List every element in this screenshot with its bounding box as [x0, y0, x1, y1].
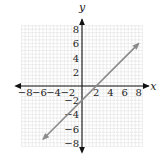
y-tick-label: −6 [64, 124, 79, 135]
y-tick-label: 4 [73, 53, 79, 64]
y-axis-label: y [78, 1, 86, 14]
coordinate-plane: −8−6−4−224688642−2−4−6−8 x y [0, 0, 167, 161]
x-tick-label: −6 [32, 87, 47, 98]
x-tick-label: −4 [46, 87, 61, 98]
x-axis-label: x [150, 80, 157, 93]
y-tick-label: 8 [73, 24, 79, 35]
x-tick-label: 4 [107, 87, 113, 98]
y-tick-label: −8 [64, 138, 79, 149]
x-tick-label: −8 [18, 87, 33, 98]
y-tick-label: 6 [73, 38, 79, 49]
axes [15, 19, 148, 152]
x-tick-label: 6 [121, 87, 127, 98]
y-tick-label: 2 [73, 67, 79, 78]
x-tick-label: 8 [136, 87, 142, 98]
